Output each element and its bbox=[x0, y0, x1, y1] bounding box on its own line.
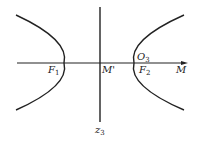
label-m-prime: M' bbox=[102, 65, 115, 75]
label-f2: F2 bbox=[139, 65, 150, 77]
label-z3: z3 bbox=[95, 125, 105, 137]
label-m: M bbox=[176, 65, 186, 75]
label-o3: O3 bbox=[137, 52, 150, 64]
label-f1: F1 bbox=[48, 65, 59, 77]
